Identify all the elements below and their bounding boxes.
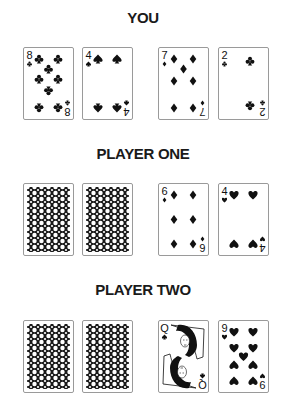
- card-you-4[interactable]: 22: [218, 47, 269, 120]
- svg-text:2: 2: [221, 49, 227, 61]
- svg-text:9: 9: [221, 322, 227, 334]
- card-player-one-3[interactable]: 66: [158, 183, 209, 256]
- svg-text:8: 8: [26, 49, 32, 61]
- svg-text:9: 9: [259, 379, 265, 391]
- svg-text:Q: Q: [160, 322, 169, 334]
- svg-text:4: 4: [123, 106, 129, 118]
- svg-text:4: 4: [221, 185, 227, 197]
- section-title-player-one: PLAYER ONE: [0, 145, 286, 162]
- card-back-pattern-icon: [83, 321, 132, 392]
- card-player-one-2-face-down[interactable]: [82, 183, 133, 256]
- svg-text:8: 8: [64, 106, 70, 118]
- card-player-two-3[interactable]: QQ: [158, 320, 209, 393]
- svg-text:6: 6: [161, 185, 167, 197]
- card-you-1[interactable]: 88: [23, 47, 74, 120]
- svg-text:2: 2: [259, 106, 265, 118]
- card-player-two-1-face-down[interactable]: [23, 320, 74, 393]
- card-player-one-1-face-down[interactable]: [23, 183, 74, 256]
- clubs-suit-icon: 22: [219, 48, 268, 119]
- card-back-pattern-icon: [24, 184, 73, 255]
- card-player-one-4[interactable]: 44: [218, 183, 269, 256]
- card-player-two-4[interactable]: 99: [218, 320, 269, 393]
- card-you-3[interactable]: 77: [158, 47, 209, 120]
- svg-text:Q: Q: [198, 379, 207, 391]
- svg-text:4: 4: [85, 49, 91, 61]
- spades-suit-icon: 44: [83, 48, 132, 119]
- hearts-suit-icon: 99: [219, 321, 268, 392]
- diamonds-suit-icon: 77: [159, 48, 208, 119]
- hearts-suit-icon: 44: [219, 184, 268, 255]
- card-you-2[interactable]: 44: [82, 47, 133, 120]
- card-back-pattern-icon: [24, 321, 73, 392]
- clubs-suit-icon: 88: [24, 48, 73, 119]
- svg-text:4: 4: [259, 242, 265, 254]
- section-title-player-two: PLAYER TWO: [0, 281, 286, 298]
- spades-suit-icon: QQ: [159, 321, 208, 392]
- svg-text:7: 7: [161, 49, 167, 61]
- svg-text:6: 6: [199, 242, 205, 254]
- section-title-you: YOU: [0, 9, 286, 26]
- svg-text:7: 7: [199, 106, 205, 118]
- diamonds-suit-icon: 66: [159, 184, 208, 255]
- card-player-two-2-face-down[interactable]: [82, 320, 133, 393]
- card-back-pattern-icon: [83, 184, 132, 255]
